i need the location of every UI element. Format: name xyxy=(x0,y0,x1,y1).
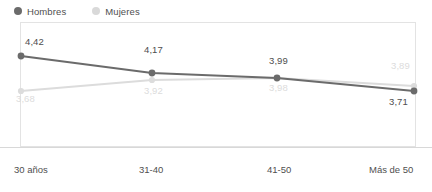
data-point-mujeres-1 xyxy=(149,77,155,83)
x-tick-label-0-line1: 30 años xyxy=(14,164,48,175)
data-label-mujeres-2: 3,98 xyxy=(269,82,288,93)
x-tick-label-3-line1: Más de 50 xyxy=(369,164,413,175)
data-point-hombres-2 xyxy=(274,75,281,82)
data-label-hombres-0: 4,42 xyxy=(25,36,44,47)
data-label-hombres-3: 3,71 xyxy=(389,96,408,107)
x-tick-label-2: 41-50 xyxy=(267,152,291,176)
x-tick-label-1-line1: 31-40 xyxy=(139,164,163,175)
data-label-hombres-1: 4,17 xyxy=(144,44,163,55)
x-axis-line xyxy=(0,147,432,148)
x-tick-label-3: Más de 50 xyxy=(369,152,413,176)
x-tick-label-0-line2: o menos xyxy=(14,188,50,192)
data-label-mujeres-1: 3,92 xyxy=(144,85,163,96)
data-point-hombres-0 xyxy=(18,53,25,60)
plot-series-layer xyxy=(0,0,432,192)
x-tick-label-1: 31-40 xyxy=(139,152,163,176)
data-label-hombres-2: 3,99 xyxy=(269,55,288,66)
x-tick-label-2-line1: 41-50 xyxy=(267,164,291,175)
line-chart: Hombres Mujeres 4,42 4,17 3,99 3,71 3,68… xyxy=(0,0,432,192)
data-label-mujeres-3: 3,89 xyxy=(391,60,410,71)
data-point-hombres-1 xyxy=(149,70,156,77)
data-point-hombres-3 xyxy=(411,88,418,95)
x-tick-label-0: 30 años o menos xyxy=(14,152,50,192)
data-label-mujeres-0: 3,68 xyxy=(16,93,35,104)
